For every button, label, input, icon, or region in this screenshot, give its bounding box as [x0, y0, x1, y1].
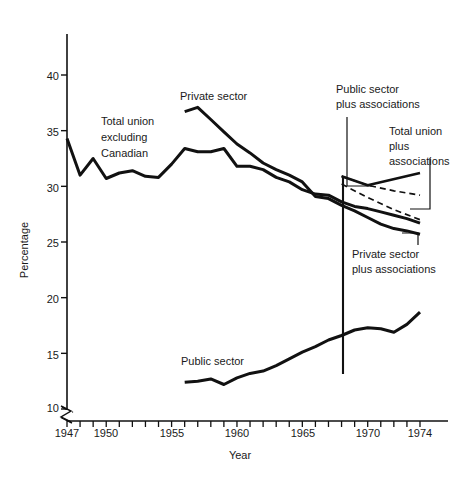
y-axis-title: Percentage: [18, 222, 30, 278]
x-axis-title: Year: [229, 449, 252, 461]
annotation-line-3: associations: [389, 155, 450, 167]
x-tick-labels: 1947 1950 1955 1960 1965 1970 1974: [55, 427, 432, 439]
chart-background: [0, 0, 475, 482]
y-tick-label-30: 30: [47, 182, 59, 194]
annotation-line-2: plus: [389, 140, 410, 152]
y-tick-label-40: 40: [47, 70, 59, 82]
x-tick-label-1947: 1947: [55, 427, 79, 439]
annotation-line-1: Public sector: [336, 83, 399, 95]
annotation-public-sector: Public sector: [181, 355, 244, 367]
annotation-line-2: plus associations: [336, 98, 420, 110]
x-tick-label-1955: 1955: [160, 427, 184, 439]
annotation-line-2: excluding: [101, 131, 147, 143]
y-tick-label-20: 20: [47, 293, 59, 305]
y-tick-label-15: 15: [47, 349, 59, 361]
x-tick-label-1950: 1950: [94, 427, 118, 439]
annotation-line-1: Total union: [389, 125, 442, 137]
x-tick-label-1970: 1970: [356, 427, 380, 439]
annotation-total-union-excluding-canadian: Total union excluding Canadian: [101, 115, 154, 159]
x-tick-label-1974: 1974: [408, 427, 432, 439]
union-density-line-chart: 10 15 20 25 30 35 40 1947 1950 1955 1960…: [0, 0, 475, 482]
annotation-private-sector: Private sector: [180, 90, 248, 102]
x-tick-label-1965: 1965: [291, 427, 315, 439]
annotation-line-1: Total union: [101, 115, 154, 127]
y-tick-label-10: 10: [47, 402, 59, 414]
annotation-line-1: Private sector: [352, 248, 420, 260]
y-tick-label-35: 35: [47, 126, 59, 138]
annotation-line-3: Canadian: [101, 147, 148, 159]
y-tick-label-25: 25: [47, 237, 59, 249]
x-tick-label-1960: 1960: [225, 427, 249, 439]
annotation-line-2: plus associations: [352, 263, 436, 275]
chart-figure: 10 15 20 25 30 35 40 1947 1950 1955 1960…: [0, 0, 475, 482]
